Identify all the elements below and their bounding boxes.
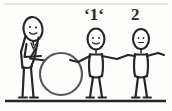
figure-right-eye-right <box>143 37 145 39</box>
figure-2-label: 2 <box>131 6 140 23</box>
ball <box>40 53 82 95</box>
figure-middle-head <box>88 29 105 50</box>
figure-1-label: ʻ1ʻ <box>84 6 104 23</box>
figure-right-torso-right <box>147 54 148 76</box>
figure-left-eye-left <box>29 26 31 28</box>
figure-middle-leg-left <box>90 77 93 97</box>
figure-left-leg-right <box>31 68 34 97</box>
figure-middle-torso-right <box>102 54 103 76</box>
figure-right <box>128 29 164 98</box>
drawing-canvas: ʻ1ʻ 2 <box>0 0 172 111</box>
figure-right-hip <box>135 76 147 78</box>
figure-right-eye-left <box>138 37 140 39</box>
figure-right-leg-right <box>144 77 147 97</box>
figure-right-arm-left <box>128 55 135 56</box>
figure-right-leg-left <box>136 77 139 97</box>
figure-middle-leg-right <box>99 77 102 97</box>
figure-right-arm-right <box>147 53 164 56</box>
figure-left-eye-right <box>35 26 37 28</box>
figure-right-head <box>133 29 149 49</box>
figure-right-torso-left <box>134 54 135 76</box>
figure-left-neck <box>33 41 34 45</box>
figure-middle-eye-left <box>92 37 94 39</box>
figure-middle-arm-right <box>102 55 128 59</box>
figure-middle-hip <box>90 76 102 78</box>
figure-left <box>19 16 45 98</box>
figure-left-leg-left <box>23 68 25 97</box>
figure-middle-eye-right <box>98 37 100 39</box>
figure-left-arm-lower <box>30 49 45 61</box>
